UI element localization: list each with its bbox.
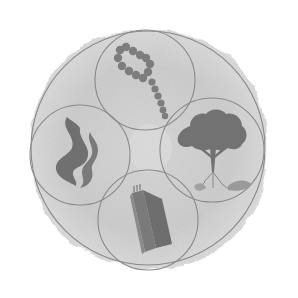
emblem-image: Grayscale circular emblem with four over… bbox=[0, 0, 298, 298]
emblem-svg bbox=[0, 0, 298, 298]
